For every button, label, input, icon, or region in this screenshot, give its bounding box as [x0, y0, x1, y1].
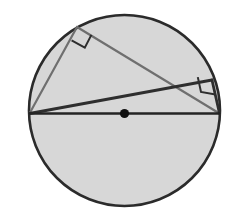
geometry-canvas [0, 0, 247, 213]
center-point-dot [120, 109, 129, 118]
geometry-figure [0, 0, 247, 213]
